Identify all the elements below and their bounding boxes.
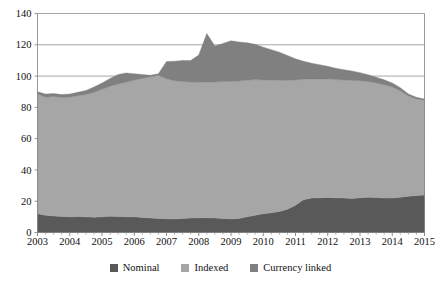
x-tick-label: 2009 — [221, 236, 242, 247]
chart-container: 020406080100120140 200320042005200620072… — [0, 0, 441, 285]
y-tick-label: 100 — [16, 71, 32, 82]
legend-label: Currency linked — [263, 262, 331, 274]
y-tick-label: 80 — [21, 102, 32, 113]
x-axis-tick-labels: 2003200420052006200720082009201020112012… — [27, 233, 435, 247]
y-tick-label: 140 — [16, 8, 32, 19]
chart-legend: NominalIndexedCurrency linked — [0, 258, 441, 278]
legend-label: Nominal — [123, 262, 160, 274]
legend-swatch-icon — [110, 264, 118, 272]
y-tick-label: 120 — [16, 39, 32, 50]
x-tick-label: 2011 — [285, 236, 306, 247]
x-tick-label: 2004 — [59, 236, 81, 247]
legend-swatch-icon — [181, 264, 189, 272]
y-tick-label: 40 — [21, 165, 32, 176]
x-tick-label: 2010 — [253, 236, 274, 247]
stacked-area-chart: 020406080100120140 200320042005200620072… — [0, 0, 441, 285]
legend-item-0[interactable]: Nominal — [110, 262, 160, 274]
x-tick-label: 2007 — [156, 236, 177, 247]
x-tick-label: 2013 — [350, 236, 371, 247]
y-axis-tick-labels: 020406080100120140 — [16, 8, 38, 238]
legend-item-1[interactable]: Indexed — [181, 262, 228, 274]
x-tick-label: 2012 — [317, 236, 338, 247]
x-tick-label: 2006 — [124, 236, 145, 247]
y-tick-label: 60 — [21, 133, 32, 144]
legend-swatch-icon — [250, 264, 258, 272]
y-tick-label: 20 — [21, 196, 32, 207]
x-tick-label: 2008 — [188, 236, 209, 247]
legend-label: Indexed — [194, 262, 228, 274]
x-tick-label: 2003 — [27, 236, 48, 247]
legend-item-2[interactable]: Currency linked — [250, 262, 331, 274]
x-tick-label: 2015 — [414, 236, 435, 247]
x-tick-label: 2014 — [382, 236, 404, 247]
x-tick-label: 2005 — [92, 236, 113, 247]
